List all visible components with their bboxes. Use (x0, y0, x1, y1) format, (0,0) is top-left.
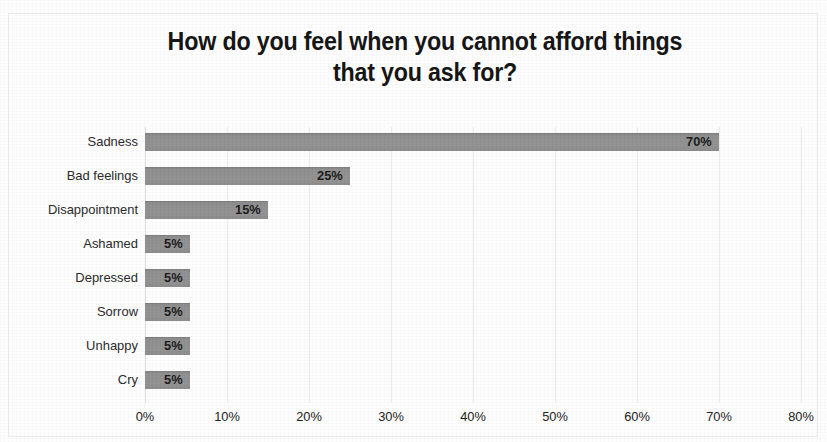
category-label: Cry (6, 371, 138, 389)
chart-title-line-1: How do you feel when you cannot afford t… (86, 26, 765, 57)
bar-row: 15% (145, 201, 268, 219)
value-axis-tick-label: 30% (363, 409, 420, 424)
category-label: Ashamed (6, 235, 138, 253)
chart-title: How do you feel when you cannot afford t… (86, 26, 765, 88)
value-axis-tick-label: 20% (281, 409, 338, 424)
gridline (801, 127, 802, 403)
value-axis-ticks: 0%10%20%30%40%50%60%70%80% (145, 409, 801, 431)
bar-series: 70%25%15%5%5%5%5%5% (145, 127, 801, 403)
bar-value-label: 5% (164, 235, 183, 253)
bar (145, 133, 719, 151)
bar-row: 5% (145, 303, 190, 321)
category-label: Depressed (6, 269, 138, 287)
bar-value-label: 15% (235, 201, 261, 219)
value-axis-tick-label: 40% (445, 409, 502, 424)
value-axis-tick-label: 10% (199, 409, 256, 424)
bar-row: 5% (145, 371, 190, 389)
chart-title-line-2: that you ask for? (86, 57, 765, 88)
bar-row: 5% (145, 235, 190, 253)
value-axis-tick-label: 0% (117, 409, 174, 424)
bar-value-label: 25% (317, 167, 343, 185)
category-label: Unhappy (6, 337, 138, 355)
value-axis-tick-label: 70% (691, 409, 748, 424)
bar-row: 70% (145, 133, 719, 151)
bar-value-label: 5% (164, 371, 183, 389)
category-label: Bad feelings (6, 167, 138, 185)
category-label: Sorrow (6, 303, 138, 321)
category-label: Disappointment (6, 201, 138, 219)
value-axis-tick-label: 80% (773, 409, 827, 424)
bar-row: 5% (145, 337, 190, 355)
chart-figure: How do you feel when you cannot afford t… (0, 0, 827, 442)
bar-row: 25% (145, 167, 350, 185)
bar-value-label: 70% (686, 133, 712, 151)
bar-value-label: 5% (164, 337, 183, 355)
category-label: Sadness (6, 133, 138, 151)
value-axis-tick-label: 60% (609, 409, 666, 424)
category-axis: SadnessBad feelingsDisappointmentAshamed… (0, 127, 138, 403)
bar-row: 5% (145, 269, 190, 287)
bar-value-label: 5% (164, 269, 183, 287)
value-axis-tick-label: 50% (527, 409, 584, 424)
bar-value-label: 5% (164, 303, 183, 321)
plot-area: 70%25%15%5%5%5%5%5% (145, 127, 801, 403)
